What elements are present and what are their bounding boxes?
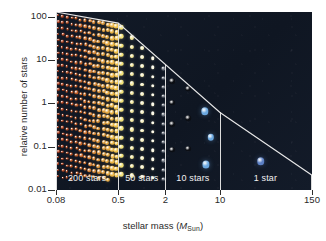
- star-dot: [151, 75, 155, 79]
- star-dot: [140, 83, 144, 87]
- star-dot: [88, 57, 92, 61]
- star-dot: [75, 54, 78, 57]
- star-dot: [70, 121, 73, 124]
- star-dot: [119, 144, 124, 149]
- x-tick-label: 2: [163, 194, 168, 205]
- star-dot: [61, 21, 64, 24]
- star-dot: [66, 164, 69, 167]
- star-dot: [62, 33, 65, 36]
- star-dot: [83, 118, 87, 122]
- x-axis-title: stellar mass (MSun): [0, 220, 326, 232]
- star-dot: [61, 114, 64, 117]
- star-dot: [79, 98, 82, 101]
- star-dot: [119, 135, 124, 140]
- star-dot: [151, 139, 155, 143]
- star-dot: [70, 48, 73, 51]
- star-dot: [185, 146, 191, 152]
- star-dot: [57, 88, 60, 91]
- star-dot: [70, 23, 73, 26]
- y-tick-label: 0.01: [28, 183, 47, 194]
- star-dot: [97, 108, 101, 112]
- star-dot: [70, 66, 73, 69]
- star-dot: [169, 78, 175, 84]
- star-dot: [119, 108, 124, 113]
- imf-figure: relative number of stars 1001010.10.01 0…: [0, 0, 326, 241]
- x-tick-label: 150: [304, 194, 320, 205]
- mass-bin-divider: [311, 175, 312, 190]
- star-dot: [88, 69, 92, 73]
- star-dot: [96, 145, 100, 149]
- star-dot: [66, 41, 69, 44]
- star-dot: [88, 124, 92, 128]
- star-dot: [92, 26, 96, 30]
- star-dot: [140, 165, 144, 169]
- star-dot: [61, 64, 64, 67]
- star-dot: [65, 90, 68, 93]
- star-dot: [119, 163, 124, 168]
- mass-bin-divider: [220, 112, 221, 190]
- star-dot: [140, 46, 144, 50]
- star-dot: [96, 52, 100, 56]
- star-dot: [92, 45, 96, 49]
- star-dot: [119, 117, 124, 122]
- star-dot: [257, 157, 265, 165]
- plot-area: 200 stars50 stars10 stars1 star: [56, 12, 312, 190]
- star-dot: [80, 30, 83, 33]
- star-dot: [92, 113, 96, 117]
- star-dot: [75, 30, 78, 33]
- star-dot: [96, 46, 100, 50]
- star-dot: [65, 128, 68, 131]
- star-dot: [97, 114, 101, 118]
- star-dot: [119, 126, 124, 131]
- star-dot: [119, 154, 124, 159]
- star-dot: [119, 172, 124, 177]
- star-dot: [57, 51, 60, 54]
- y-tick-label: 10: [36, 53, 47, 64]
- star-dot: [62, 132, 65, 135]
- y-tick-label: 100: [31, 10, 47, 21]
- y-tick: [48, 17, 55, 18]
- star-dot: [75, 42, 78, 45]
- star-dot: [61, 15, 64, 18]
- star-dot: [185, 86, 191, 92]
- star-dot: [92, 33, 96, 37]
- star-dot: [66, 27, 69, 30]
- star-dot: [92, 106, 96, 110]
- star-dot: [66, 151, 69, 154]
- star-dot: [92, 64, 96, 68]
- star-dot: [61, 119, 64, 122]
- star-dot: [70, 159, 73, 162]
- star-dot: [96, 164, 100, 168]
- star-dot: [151, 130, 155, 134]
- star-dot: [66, 133, 69, 136]
- star-dot: [75, 79, 78, 82]
- star-dot: [71, 78, 74, 81]
- star-dot: [71, 16, 74, 19]
- star-dot: [185, 116, 191, 122]
- y-tick: [48, 147, 55, 148]
- star-dot: [92, 95, 96, 99]
- star-dot: [70, 97, 73, 100]
- star-dot: [62, 169, 65, 172]
- star-dot: [70, 115, 73, 118]
- star-dot: [65, 77, 68, 80]
- star-dot: [65, 65, 68, 68]
- star-dot: [61, 83, 64, 86]
- star-dot: [97, 27, 101, 31]
- star-dot: [92, 169, 96, 173]
- star-dot: [119, 80, 124, 85]
- star-dot: [74, 23, 77, 26]
- star-dot: [169, 147, 175, 153]
- star-dot: [151, 56, 155, 60]
- star-dot: [92, 163, 96, 167]
- star-dot: [75, 128, 78, 131]
- star-dot: [66, 71, 69, 74]
- star-dot: [61, 108, 64, 111]
- star-dot: [84, 24, 88, 28]
- x-axis-title-suffix: ): [200, 220, 203, 231]
- star-dot: [71, 35, 74, 38]
- star-dot: [92, 132, 96, 136]
- star-dot: [140, 92, 144, 96]
- star-dot: [169, 100, 175, 106]
- star-dot: [92, 39, 96, 43]
